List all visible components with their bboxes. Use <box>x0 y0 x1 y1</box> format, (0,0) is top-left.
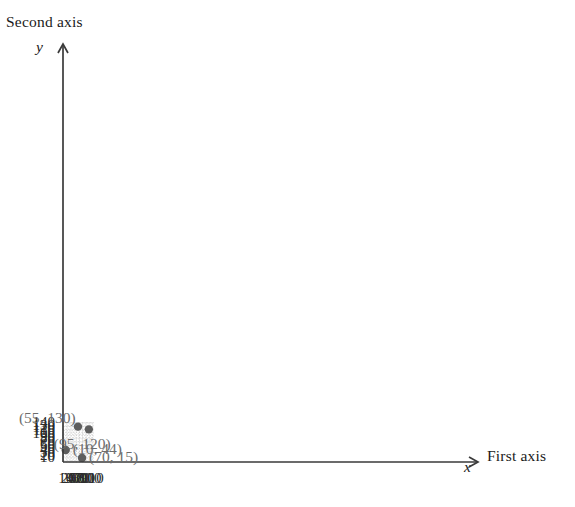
data-point-label: (55, 130) <box>19 409 76 427</box>
scatter-chart: Second axis y First axis x 1020304050607… <box>0 0 575 507</box>
x-tick-label: 110 <box>73 470 113 487</box>
data-point-label: (70, 15) <box>89 448 138 466</box>
axis-lines <box>0 0 575 507</box>
